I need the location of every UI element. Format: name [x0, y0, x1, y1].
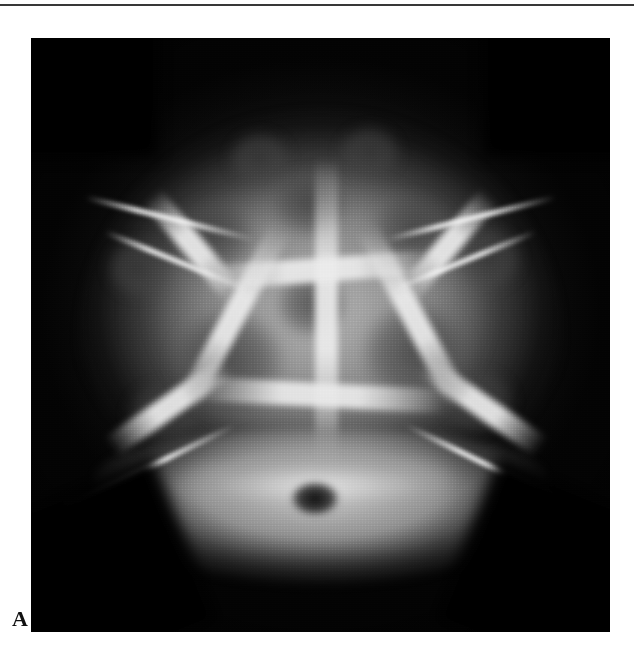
page-top-rule: [0, 4, 634, 6]
shadow-top-left: [31, 38, 158, 157]
skull-radiograph-image: [31, 38, 610, 632]
figure-panel: A: [0, 0, 634, 660]
foramen-magnum: [286, 478, 344, 520]
panel-label-a: A: [12, 608, 28, 630]
septum-midline-vertical: [315, 157, 338, 466]
shadow-top-right: [483, 38, 610, 157]
